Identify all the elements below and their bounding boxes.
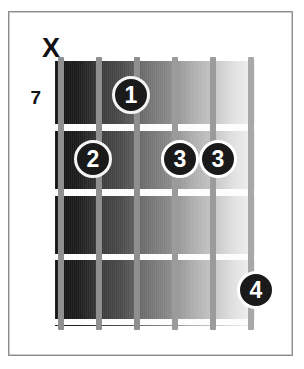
string-1 (58, 57, 64, 330)
finger-marker-3-string-5: 3 (199, 140, 237, 178)
fret-line-1 (55, 124, 255, 131)
string-5 (210, 57, 216, 330)
fret-line-4 (55, 319, 255, 325)
string-2 (96, 57, 102, 330)
fretboard (55, 61, 255, 326)
string-4 (172, 57, 178, 330)
finger-marker-2: 2 (74, 140, 112, 178)
finger-marker-3-string-4: 3 (161, 140, 199, 178)
finger-marker-4: 4 (237, 271, 275, 309)
fret-line-3 (55, 254, 255, 260)
chord-diagram: X 7 1 2 3 3 4 (0, 0, 304, 369)
fret-line-2 (55, 189, 255, 196)
fret-position-label: 7 (23, 88, 41, 107)
finger-marker-1: 1 (112, 76, 150, 114)
